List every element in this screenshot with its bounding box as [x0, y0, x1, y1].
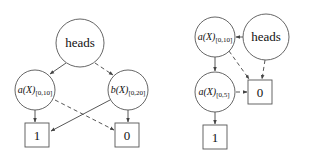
- terminal-label: 0: [124, 128, 131, 143]
- node-heads: heads: [243, 14, 289, 60]
- node-heads: heads: [56, 19, 104, 67]
- edge-b-to-one-solid: [51, 100, 110, 131]
- terminal-label: 0: [257, 85, 264, 100]
- terminal-one: 1: [203, 125, 227, 149]
- terminal-zero: 0: [248, 80, 272, 104]
- node-label: heads: [65, 35, 95, 50]
- node-label: heads: [251, 29, 281, 44]
- node-b-x-0-20: b(X)[0,20]: [108, 70, 148, 110]
- node-a-x-0-5: a(X)[0,5]: [195, 72, 235, 112]
- diagram-canvas: heads a(X)[0,10] b(X)[0,20] 1 0 a(: [0, 0, 313, 160]
- edge-heads-to-a-solid: [50, 63, 66, 74]
- terminal-label: 1: [212, 130, 219, 145]
- edge-heads-to-zero-dashed: [262, 60, 265, 79]
- terminal-one: 1: [25, 123, 49, 147]
- left-diagram: heads a(X)[0,10] b(X)[0,20] 1 0: [15, 19, 148, 147]
- node-a-x-0-10: a(X)[0,10]: [195, 17, 235, 57]
- terminal-label: 1: [34, 128, 41, 143]
- right-diagram: a(X)[0,10] heads a(X)[0,5] 0 1: [195, 14, 289, 149]
- edge-a-to-zero-dashed: [55, 100, 114, 130]
- edge-heads-to-b-dashed: [95, 63, 113, 75]
- edge-a10-to-zero-dashed: [229, 51, 249, 79]
- terminal-zero: 0: [115, 123, 139, 147]
- node-a-x-0-10: a(X)[0,10]: [15, 70, 55, 110]
